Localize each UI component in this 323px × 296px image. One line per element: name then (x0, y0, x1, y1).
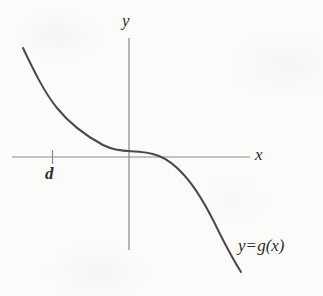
x-axis-tick-label-d: d (45, 165, 54, 182)
x-axis-label: x (255, 146, 263, 163)
y-axis-label: y (122, 12, 130, 29)
function-curve-g (23, 48, 241, 272)
equation-lhs: y (238, 236, 246, 255)
math-figure: y x d y=g(x) (0, 0, 323, 296)
curve-equation-label: y=g(x) (238, 237, 285, 254)
equation-equals-sign: = (246, 236, 258, 255)
equation-rhs: g(x) (257, 236, 284, 255)
